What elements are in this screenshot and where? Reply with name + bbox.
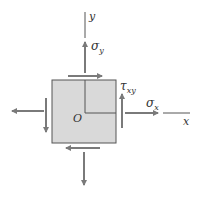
stress-element-diagram: y x O σy σx τxy bbox=[0, 0, 197, 197]
tau-xy-label: τxy bbox=[120, 79, 136, 95]
x-axis-label: x bbox=[183, 115, 190, 128]
origin-label: O bbox=[73, 112, 82, 125]
stress-element bbox=[52, 80, 116, 143]
sigma-y-label: σy bbox=[91, 39, 104, 55]
sigma-x-label: σx bbox=[146, 96, 159, 112]
y-axis-label: y bbox=[88, 10, 96, 23]
